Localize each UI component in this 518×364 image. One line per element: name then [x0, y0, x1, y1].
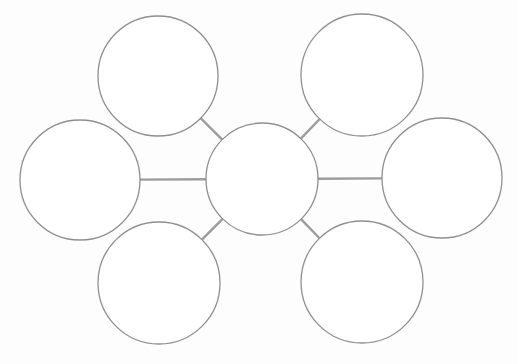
bubble-circle-top-left[interactable] [98, 16, 218, 136]
bubble-bottom-right[interactable] [301, 221, 423, 343]
bubble-bottom-left[interactable] [98, 222, 220, 344]
bubble-circle-bottom-right[interactable] [301, 221, 423, 343]
bubble-top-left[interactable] [98, 16, 218, 136]
bubble-circle-bottom-left[interactable] [98, 222, 220, 344]
bubble-map-diagram [0, 0, 518, 364]
bubble-circle-center[interactable] [206, 123, 318, 235]
bubble-circle-right[interactable] [382, 118, 502, 238]
bubble-left[interactable] [20, 120, 140, 240]
bubble-circle-top-right[interactable] [301, 14, 423, 136]
bubble-circle-left[interactable] [20, 120, 140, 240]
bubble-right[interactable] [382, 118, 502, 238]
bubble-center[interactable] [206, 123, 318, 235]
bubble-top-right[interactable] [301, 14, 423, 136]
